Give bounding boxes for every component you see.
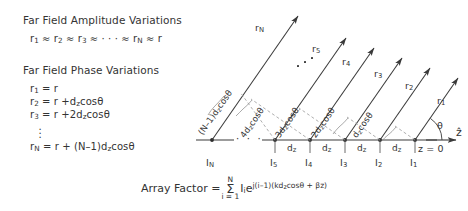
summation-operator: NΣi = 1 [221, 176, 239, 200]
ray-ellipsis-dots [296, 54, 322, 70]
array-geometry-diagram: r1 r2 r3 r4 r5 rN (N–1)dzcosθ 4dzcosθ [190, 0, 468, 170]
amp-r2-sub: 2 [58, 36, 63, 45]
ray-label-r2-sub: 2 [409, 84, 413, 92]
amp-r1-sub: 1 [34, 36, 39, 45]
element-I5-sub: 5 [273, 161, 277, 169]
element-label-I3: I3 [340, 157, 347, 169]
spacing-label-1: dz [287, 143, 297, 154]
phase-equation-3: r3 = r +2dzcosθ [30, 109, 110, 122]
phase-eq2-tail: cosθ [80, 96, 103, 107]
phase-eq3-tail: cosθ [87, 109, 110, 120]
ray-label-rN: rN [255, 22, 264, 34]
element-IN-sub: N [209, 161, 214, 169]
phase-equation-1: r1 = r [30, 83, 58, 96]
spacing-label-3: dz [357, 143, 367, 154]
spacing-label-2: dz [322, 143, 332, 154]
phase-vertical-ellipsis: ... [36, 122, 44, 134]
phase-eq2-rhs: = r +d [42, 96, 76, 107]
amplitude-relation: r1 ≈ r2 ≈ r3 ≈ · · · ≈ rN ≈ r [30, 33, 162, 46]
ray-label-rN-sub: N [259, 26, 264, 34]
array-factor-equals: = [211, 182, 220, 195]
amp-ellipsis: · · · [102, 33, 118, 44]
element-I1-sub: 1 [413, 161, 417, 169]
diagram-canvas: Far Field Amplitude Variations r1 ≈ r2 ≈… [0, 0, 468, 211]
spacing-label-4: dz [392, 143, 402, 154]
spacing-2-sub: z [328, 146, 332, 154]
element-label-IN: IN [206, 157, 214, 169]
phase-heading: Far Field Phase Variations [23, 64, 159, 76]
element-I2-sub: 2 [378, 161, 382, 169]
exponent-main: j(i–1)(kd [252, 181, 283, 190]
array-factor-term: Iiej(i–1)(kdzcosθ + βz) [240, 181, 327, 195]
z-axis-label: ẑ [456, 126, 462, 139]
spacing-4-sub: z [398, 146, 402, 154]
element-I4-sub: 4 [308, 161, 312, 169]
array-factor-formula: Array Factor =NΣi = 1Iiej(i–1)(kdzcosθ +… [0, 176, 468, 200]
phase-eq1-rhs: = r [42, 83, 58, 94]
phase-eq2-sub: 2 [34, 99, 39, 108]
amp-approx-4: ≈ [121, 33, 129, 44]
axis-ellipsis: · · · [236, 133, 263, 144]
explanatory-text-column: Far Field Amplitude Variations r1 ≈ r2 ≈… [0, 0, 196, 170]
array-factor-label: Array Factor [141, 182, 208, 195]
amp-r: r [158, 33, 162, 44]
phase-eqN-sub: N [34, 144, 39, 153]
theta-label: θ [437, 120, 443, 131]
phase-equation-N: rN = r + (N–1)dzcosθ [30, 141, 135, 154]
ray-label-r1: r1 [437, 95, 445, 107]
element-label-I1: I1 [410, 157, 417, 169]
phase-equation-2: r2 = r +dzcosθ [30, 96, 103, 109]
phase-eqN-tail: cosθ [111, 141, 134, 152]
phase-eqN-rhs: = r + (N–1)d [43, 141, 108, 152]
phase-eq3-sub: 3 [34, 112, 39, 121]
ray-label-r2: r2 [405, 80, 413, 92]
ray-label-r4-sub: 4 [346, 60, 350, 68]
amp-r3-sub: 3 [82, 36, 87, 45]
amp-approx-1: ≈ [42, 33, 50, 44]
amplitude-heading: Far Field Amplitude Variations [23, 14, 182, 26]
amp-approx-3: ≈ [90, 33, 98, 44]
ray-label-r3-sub: 3 [378, 72, 382, 80]
element-I3-sub: 3 [343, 161, 347, 169]
element-label-I2: I2 [375, 157, 382, 169]
exponent-tail: cosθ + βz) [287, 181, 327, 190]
element-label-I4: I4 [305, 157, 312, 169]
summation-lower-limit: i = 1 [221, 193, 239, 201]
phase-eq1-sub: 1 [34, 86, 39, 95]
spacing-3-sub: z [363, 146, 367, 154]
ray-label-r4: r4 [342, 56, 350, 68]
ray-label-r1-sub: 1 [441, 99, 445, 107]
phase-eq3-rhs: = r +2d [42, 109, 83, 120]
origin-label: z = 0 [418, 143, 444, 154]
spacing-1-sub: z [293, 146, 297, 154]
amp-rN-sub: N [137, 36, 142, 45]
amp-approx-5: ≈ [146, 33, 154, 44]
amp-approx-2: ≈ [66, 33, 74, 44]
ray-label-r3: r3 [374, 68, 382, 80]
exponent: j(i–1)(kdzcosθ + βz) [252, 181, 327, 190]
element-label-I5: I5 [270, 157, 277, 169]
